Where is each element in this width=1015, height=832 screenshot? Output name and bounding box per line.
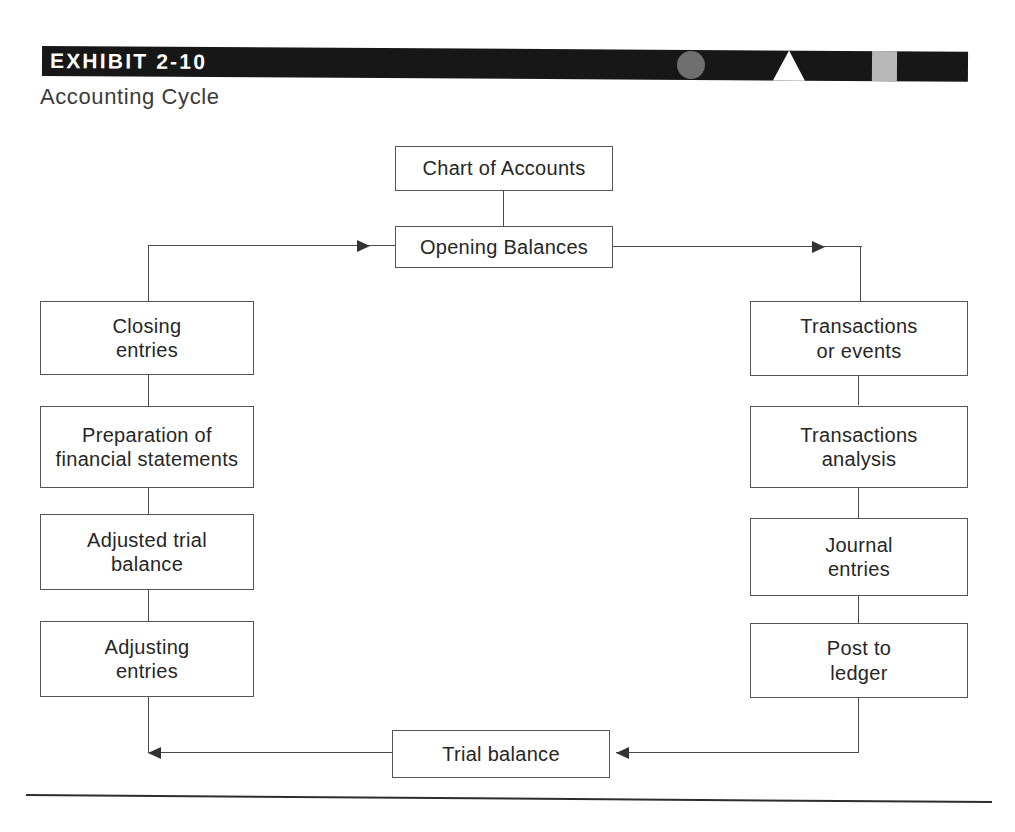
edge-opening-balances-to-transactions-vertical — [860, 246, 861, 301]
exhibit-header-bar: EXHIBIT 2-10 — [42, 46, 968, 82]
edge-transactions-events-to-analysis — [858, 375, 859, 405]
node-transactions-analysis[interactable]: Transactions analysis — [750, 406, 968, 488]
node-journal-entries[interactable]: Journal entries — [750, 518, 968, 596]
node-chart-of-accounts-label: Chart of Accounts — [417, 156, 592, 180]
node-opening-balances-label: Opening Balances — [414, 235, 594, 259]
exhibit-number-label: EXHIBIT 2-10 — [50, 46, 207, 77]
edge-post-to-ledger-to-trial-balance-vertical — [858, 697, 859, 753]
edge-trial-balance-to-adjusting-entries-vertical — [148, 697, 149, 753]
exhibit-page: EXHIBIT 2-10 Accounting Cycle Chart of A… — [0, 0, 1015, 832]
node-transactions-analysis-label: Transactions analysis — [788, 423, 929, 472]
arrowhead-post-to-ledger-to-trial-balance — [616, 747, 629, 759]
edge-transactions-analysis-to-journal-entries — [858, 488, 859, 518]
node-post-to-ledger[interactable]: Post to ledger — [750, 623, 968, 698]
arrowhead-opening-balances-to-transactions — [812, 241, 825, 253]
node-preparation-label: Preparation of financial statements — [44, 423, 251, 472]
edge-closing-entries-to-opening-balances-vertical — [148, 245, 149, 301]
node-transactions-analysis-line2: analysis — [794, 447, 923, 471]
edge-preparation-to-closing-entries — [148, 375, 149, 406]
node-post-to-ledger-label: Post to ledger — [815, 636, 903, 685]
arrowhead-closing-entries-to-opening-balances — [357, 240, 370, 252]
edge-journal-entries-to-post-to-ledger — [858, 595, 859, 623]
node-transactions-or-events[interactable]: Transactions or events — [750, 301, 968, 376]
node-adjusted-trial-balance-line2: balance — [81, 552, 213, 576]
node-closing-entries-line1: Closing — [107, 314, 188, 338]
node-journal-entries-label: Journal entries — [813, 533, 905, 582]
node-transactions-or-events-label: Transactions or events — [788, 314, 929, 363]
node-transactions-or-events-line2: or events — [794, 339, 923, 363]
node-adjusting-entries-line1: Adjusting — [99, 635, 196, 659]
node-trial-balance-label: Trial balance — [436, 742, 566, 766]
node-adjusting-entries-label: Adjusting entries — [93, 635, 202, 684]
node-adjusted-trial-balance-label: Adjusted trial balance — [75, 528, 219, 577]
node-opening-balances[interactable]: Opening Balances — [395, 226, 613, 268]
node-adjusted-trial-balance-line1: Adjusted trial — [81, 528, 213, 552]
node-journal-entries-line1: Journal — [819, 533, 899, 557]
edge-adjusting-entries-to-adjusted-trial-balance — [148, 590, 149, 621]
node-adjusting-entries-line2: entries — [99, 659, 196, 683]
header-circle-decoration — [677, 51, 705, 79]
node-post-to-ledger-line1: Post to — [821, 636, 897, 660]
edge-trial-balance-to-adjusting-entries-horizontal — [148, 752, 392, 753]
node-transactions-analysis-line1: Transactions — [794, 423, 923, 447]
node-preparation-line1: Preparation of — [50, 423, 245, 447]
edge-adjusted-trial-balance-to-preparation — [148, 488, 149, 514]
node-adjusting-entries[interactable]: Adjusting entries — [40, 621, 254, 697]
bottom-horizontal-rule — [26, 794, 992, 803]
edge-post-to-ledger-to-trial-balance-horizontal — [616, 752, 859, 753]
node-closing-entries-line2: entries — [107, 338, 188, 362]
node-closing-entries-label: Closing entries — [101, 314, 194, 363]
node-closing-entries[interactable]: Closing entries — [40, 301, 254, 375]
node-transactions-or-events-line1: Transactions — [794, 314, 923, 338]
node-journal-entries-line2: entries — [819, 557, 899, 581]
edge-chart-of-accounts-to-opening-balances — [503, 190, 504, 227]
header-triangle-decoration — [773, 50, 805, 80]
node-adjusted-trial-balance[interactable]: Adjusted trial balance — [40, 514, 254, 590]
node-post-to-ledger-line2: ledger — [821, 661, 897, 685]
node-chart-of-accounts[interactable]: Chart of Accounts — [395, 146, 613, 191]
node-preparation-of-financial-statements[interactable]: Preparation of financial statements — [40, 406, 254, 488]
arrowhead-trial-balance-to-adjusting-entries — [148, 747, 161, 759]
node-trial-balance[interactable]: Trial balance — [392, 730, 610, 778]
exhibit-subtitle: Accounting Cycle — [40, 84, 220, 110]
node-preparation-line2: financial statements — [50, 447, 245, 471]
header-gray-segment-decoration — [872, 51, 897, 81]
